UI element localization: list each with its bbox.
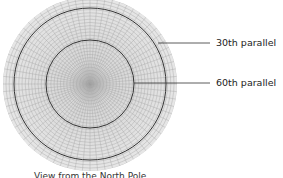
polar-projection-diagram bbox=[0, 0, 283, 178]
30th-parallel-label: 30th parallel bbox=[216, 37, 276, 48]
60th-parallel-label: 60th parallel bbox=[216, 77, 276, 88]
caption: View from the North Pole bbox=[34, 171, 146, 178]
